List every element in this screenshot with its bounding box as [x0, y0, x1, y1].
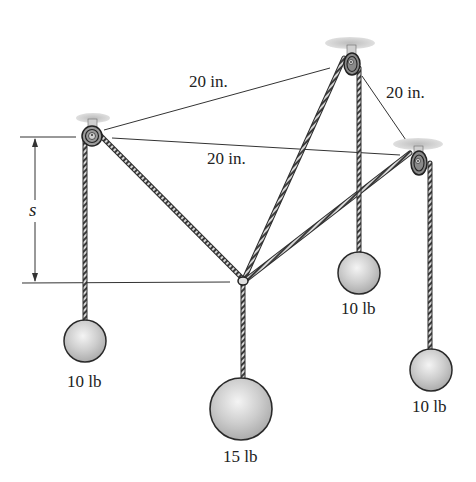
weight-a-sphere	[64, 320, 106, 362]
dim-label-s: s	[29, 200, 36, 219]
weight-a-label: 10 lb	[67, 373, 101, 390]
s-ext-bottom	[22, 282, 230, 283]
weight-b-sphere	[338, 252, 380, 294]
weight-c-label: 10 lb	[412, 398, 446, 415]
dim-label-ab: 20 in.	[189, 73, 228, 90]
s-arrow-down-icon	[32, 273, 38, 282]
dim-label-ac: 20 in.	[207, 150, 246, 167]
dim-label-bc: 20 in.	[386, 84, 425, 101]
weight-b-label: 10 lb	[341, 300, 375, 317]
ropes	[85, 58, 430, 380]
weight-center-sphere	[210, 378, 272, 440]
weight-center-label: 15 lb	[223, 448, 257, 465]
pulley-b	[325, 37, 375, 75]
pulley-c	[393, 138, 443, 175]
knot	[238, 277, 248, 285]
weight-c-sphere	[410, 349, 452, 391]
weights	[64, 252, 452, 440]
s-arrow-up-icon	[32, 138, 38, 147]
diagram-canvas: 20 in. 20 in. 20 in. s 10 lb 10 lb 10 lb…	[0, 0, 476, 482]
pulley-system-figure	[0, 0, 476, 482]
